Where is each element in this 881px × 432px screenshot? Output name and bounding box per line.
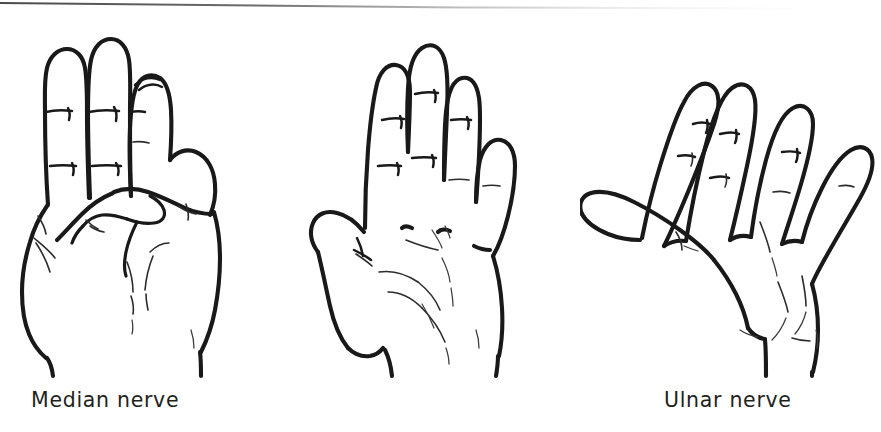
- nerve-test-figure: Median nerve: [0, 0, 881, 432]
- panel-ulnar-nerve: Ulnar nerve: [290, 0, 590, 432]
- hand-drawing-ulnar: [290, 0, 590, 380]
- hand-drawing-radial: [580, 0, 881, 380]
- hand-drawing-median: [0, 0, 300, 380]
- caption-median-nerve: Median nerve: [31, 388, 179, 412]
- panel-radial-nerve: Radial nerve: [580, 0, 881, 432]
- panel-median-nerve: Median nerve: [0, 0, 300, 432]
